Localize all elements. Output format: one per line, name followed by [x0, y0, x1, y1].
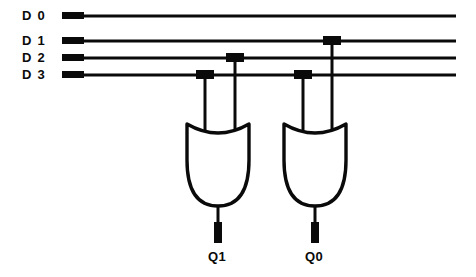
or-gate-q0-body: [284, 124, 346, 206]
or-gate-q1-body: [187, 124, 249, 206]
input-label-d2: D 2: [22, 51, 46, 64]
or-gate-q0-output-cap: [311, 222, 319, 243]
input-label-d3: D 3: [22, 68, 46, 81]
wire-d0-cap: [62, 12, 84, 19]
wire-d1-cap: [62, 37, 84, 44]
output-label-q0: Q0: [305, 250, 323, 263]
input-label-d0: D 0: [22, 9, 46, 22]
wire-d2-cap: [62, 54, 84, 61]
wire-d3-cap: [62, 71, 84, 78]
output-label-q1: Q1: [208, 250, 226, 263]
or-gate-q1-output-cap: [214, 222, 222, 243]
input-label-d1: D 1: [22, 34, 46, 47]
junction-dot: [196, 70, 214, 79]
circuit-diagram: D 0 D 1 D 2 D 3 Q1 Q0: [0, 0, 476, 277]
gate-q1-input-wires: [205, 58, 235, 130]
gate-q0-input-wires: [303, 41, 332, 130]
junction-dot: [294, 70, 312, 79]
or-gate-q0[interactable]: [284, 124, 346, 243]
junction-dot: [226, 53, 244, 62]
or-gate-q1[interactable]: [187, 124, 249, 243]
input-bus-wires: [62, 12, 456, 78]
circuit-svg: [0, 0, 476, 277]
junction-dot: [323, 36, 341, 45]
